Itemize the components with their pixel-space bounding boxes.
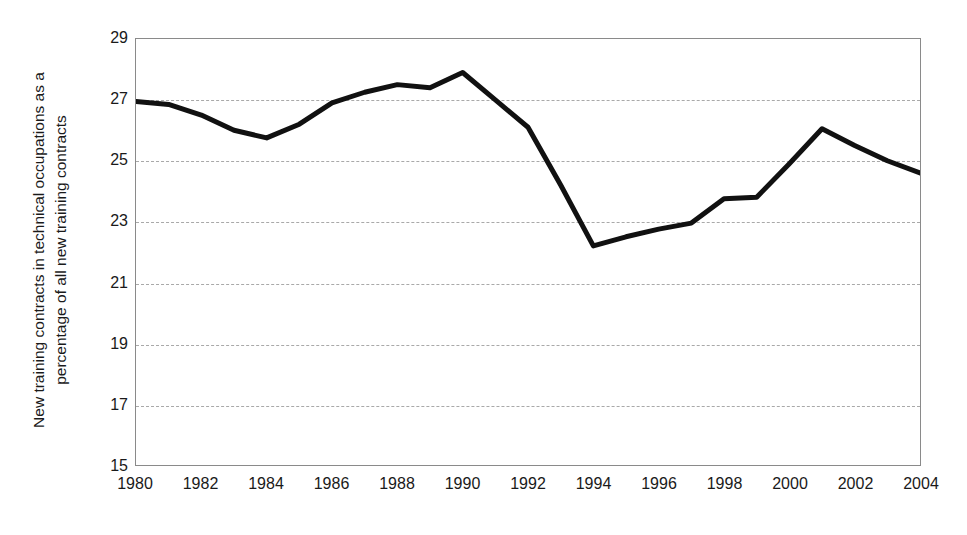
y-axis-title-line-1: New training contracts in technical occu… <box>28 72 50 428</box>
y-axis-tick-labels: 2927252321191715 <box>88 38 128 466</box>
x-tick-label-2004: 2004 <box>886 474 956 494</box>
y-axis-title: New training contracts in technical occu… <box>0 0 100 500</box>
y-tick-label-29: 29 <box>92 30 128 46</box>
x-tick-label-1986: 1986 <box>297 474 367 494</box>
x-tick-label-1992: 1992 <box>493 474 563 494</box>
series-polyline <box>136 72 920 245</box>
x-tick-label-1982: 1982 <box>166 474 236 494</box>
x-tick-label-2000: 2000 <box>755 474 825 494</box>
x-tick-label-2002: 2002 <box>821 474 891 494</box>
x-tick-label-1994: 1994 <box>559 474 629 494</box>
y-tick-label-15: 15 <box>92 458 128 474</box>
x-axis-tick-labels: 1980198219841986198819901992199419961998… <box>135 474 921 500</box>
y-tick-label-23: 23 <box>92 213 128 229</box>
x-tick-label-1980: 1980 <box>100 474 170 494</box>
x-tick-label-1990: 1990 <box>428 474 498 494</box>
y-tick-label-17: 17 <box>92 397 128 413</box>
plot-area <box>135 38 921 466</box>
y-tick-label-21: 21 <box>92 275 128 291</box>
data-series-line <box>136 39 920 465</box>
line-chart-figure: New training contracts in technical occu… <box>0 0 967 535</box>
x-tick-label-1988: 1988 <box>362 474 432 494</box>
y-tick-label-27: 27 <box>92 91 128 107</box>
x-tick-label-1996: 1996 <box>624 474 694 494</box>
x-tick-label-1984: 1984 <box>231 474 301 494</box>
y-tick-label-19: 19 <box>92 336 128 352</box>
y-axis-title-line-2: percentage of all new training contracts <box>50 72 72 428</box>
y-tick-label-25: 25 <box>92 152 128 168</box>
x-tick-label-1998: 1998 <box>690 474 760 494</box>
